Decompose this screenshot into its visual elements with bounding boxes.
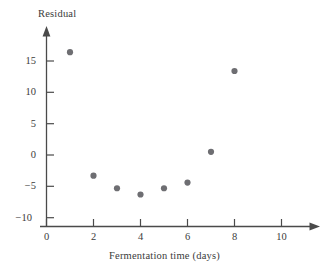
y-axis bbox=[43, 26, 51, 227]
residual-scatter-figure: 15 10 5 0 −5 −10 0 2 4 6 8 10 Residual F… bbox=[0, 0, 329, 274]
y-tick-label-15: 15 bbox=[8, 55, 36, 66]
x-tick-label-8: 8 bbox=[221, 231, 249, 242]
x-tick-label-2: 2 bbox=[80, 231, 108, 242]
x-tick-label-0: 0 bbox=[33, 231, 61, 242]
plot-area: 15 10 5 0 −5 −10 0 2 4 6 8 10 Residual F… bbox=[0, 0, 329, 274]
data-point bbox=[231, 68, 237, 74]
y-tick-label-0: 0 bbox=[8, 149, 36, 160]
data-point bbox=[67, 49, 73, 55]
data-point bbox=[161, 185, 167, 191]
x-tick-label-10: 10 bbox=[268, 231, 296, 242]
x-axis-title: Fermentation time (days) bbox=[0, 250, 329, 261]
data-point-group bbox=[67, 49, 238, 198]
data-point bbox=[208, 149, 214, 155]
y-tick-label-neg10: −10 bbox=[4, 212, 32, 223]
y-tick-label-5: 5 bbox=[8, 118, 36, 129]
data-point bbox=[184, 179, 190, 185]
data-point bbox=[137, 191, 143, 197]
x-tick-label-4: 4 bbox=[127, 231, 155, 242]
y-axis-ticks bbox=[47, 61, 55, 218]
x-tick-label-6: 6 bbox=[174, 231, 202, 242]
y-tick-label-10: 10 bbox=[8, 86, 36, 97]
x-axis bbox=[40, 223, 320, 231]
x-axis-ticks bbox=[47, 219, 282, 227]
y-axis-title: Residual bbox=[38, 8, 76, 19]
y-tick-label-neg5: −5 bbox=[8, 180, 36, 191]
data-point bbox=[90, 173, 96, 179]
data-point bbox=[114, 185, 120, 191]
